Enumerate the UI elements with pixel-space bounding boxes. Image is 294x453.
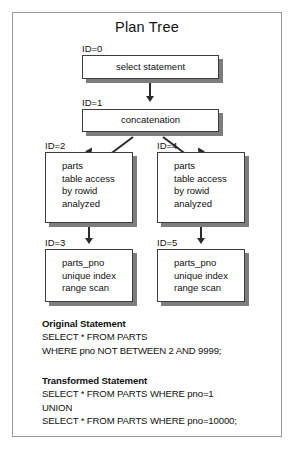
node-id-label-2: ID=2 — [45, 140, 65, 151]
node-id-label-1: ID=1 — [82, 97, 102, 108]
node-line: unique index — [174, 270, 244, 283]
connector-0-1-line — [149, 83, 151, 97]
node-line: table access — [62, 173, 132, 186]
node-id-label-5: ID=5 — [157, 237, 177, 248]
original-statement-line: WHERE pno NOT BETWEEN 2 AND 9999; — [42, 344, 221, 357]
node-line: analyzed — [174, 198, 244, 211]
node-parts-table-access-right[interactable]: parts table access by rowid analyzed — [157, 152, 245, 223]
node-line: table access — [174, 173, 244, 186]
connector-4-5-arrow-icon — [197, 238, 205, 244]
figure-frame: Plan Tree ID=0 select statement ID=1 con… — [12, 12, 282, 437]
transformed-statement-line: SELECT * FROM PARTS WHERE pno=1 — [42, 387, 237, 400]
node-line: unique index — [62, 270, 132, 283]
original-statement-line: SELECT * FROM PARTS — [42, 330, 221, 343]
node-parts-pno-index-right[interactable]: parts_pno unique index range scan — [157, 249, 245, 302]
node-id-label-0: ID=0 — [82, 43, 102, 54]
node-line: parts_pno — [174, 257, 244, 270]
original-statement-block: Original Statement SELECT * FROM PARTS W… — [42, 317, 221, 357]
node-line: analyzed — [62, 198, 132, 211]
node-concatenation[interactable]: concatenation — [82, 109, 219, 132]
node-select-statement[interactable]: select statement — [82, 55, 219, 79]
transformed-statement-block: Transformed Statement SELECT * FROM PART… — [42, 374, 237, 428]
node-line: parts — [62, 160, 132, 173]
node-id-label-3: ID=3 — [45, 237, 65, 248]
original-statement-heading: Original Statement — [42, 317, 221, 330]
node-id-label-4: ID=4 — [157, 140, 177, 151]
node-line: by rowid — [174, 185, 244, 198]
node-select-statement-text: select statement — [116, 61, 185, 74]
node-line: range scan — [62, 282, 132, 295]
figure-title: Plan Tree — [13, 19, 281, 35]
connector-0-1-arrow-icon — [146, 96, 154, 102]
node-line: by rowid — [62, 185, 132, 198]
transformed-statement-line: UNION — [42, 401, 237, 414]
node-parts-table-access-left[interactable]: parts table access by rowid analyzed — [45, 152, 133, 223]
node-line: parts — [174, 160, 244, 173]
node-line: parts_pno — [62, 257, 132, 270]
connector-2-3-arrow-icon — [85, 238, 93, 244]
node-line: range scan — [174, 282, 244, 295]
node-concatenation-text: concatenation — [121, 114, 180, 127]
transformed-statement-heading: Transformed Statement — [42, 374, 237, 387]
transformed-statement-line: SELECT * FROM PARTS WHERE pno=10000; — [42, 414, 237, 427]
node-parts-pno-index-left[interactable]: parts_pno unique index range scan — [45, 249, 133, 302]
